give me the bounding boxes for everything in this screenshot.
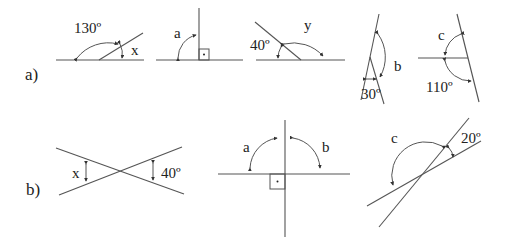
angle-c-label: c bbox=[438, 27, 445, 43]
angle-y-label: y bbox=[304, 17, 312, 33]
angle-110-label: 110º bbox=[426, 79, 453, 95]
angle-b-label: b bbox=[322, 139, 330, 155]
angle-30-label: 30º bbox=[361, 86, 381, 102]
angle-x-label: x bbox=[72, 165, 80, 181]
angle-b-label: b bbox=[394, 58, 402, 74]
section-b-label: b) bbox=[26, 180, 40, 199]
section-a-label: a) bbox=[25, 65, 38, 84]
figure-a4: b 30º bbox=[361, 14, 402, 104]
angle-x-label: x bbox=[131, 42, 139, 58]
angle-a-label: a bbox=[243, 139, 250, 155]
figure-b3: c 20º bbox=[367, 118, 481, 227]
figure-a2: a bbox=[156, 8, 243, 60]
figure-a5: c 110º bbox=[418, 14, 479, 102]
angle-130-label: 130º bbox=[74, 20, 102, 36]
angle-20-label: 20º bbox=[461, 130, 481, 146]
angle-c-label: c bbox=[391, 130, 398, 146]
figure-a3: y 40º bbox=[250, 17, 345, 60]
angle-a-label: a bbox=[174, 25, 181, 41]
angle-40-label: 40º bbox=[250, 37, 270, 53]
figure-a1: 130º x bbox=[56, 20, 144, 60]
angle-40-label: 40º bbox=[161, 165, 181, 181]
figure-b2: a b bbox=[218, 120, 350, 237]
figure-b1: x 40º bbox=[56, 147, 184, 195]
